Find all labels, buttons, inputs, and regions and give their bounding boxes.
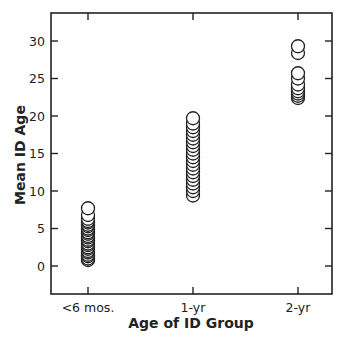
data-points [82, 40, 305, 267]
data-point-circle [292, 67, 305, 80]
y-tick-label: 0 [37, 259, 45, 274]
data-point-circle [292, 40, 305, 53]
x-tick-label: <6 mos. [62, 300, 115, 315]
y-tick-label: 5 [37, 221, 45, 236]
scatter-chart: 051015202530 <6 mos.1-yr2-yr Age of ID G… [0, 0, 345, 339]
y-axis-title: Mean ID Age [12, 105, 28, 205]
y-axis: 051015202530 [29, 34, 332, 274]
y-tick-label: 20 [29, 109, 45, 124]
x-axis-title: Age of ID Group [128, 315, 254, 331]
y-tick-label: 10 [29, 184, 45, 199]
data-point-circle [82, 202, 95, 215]
y-tick-label: 30 [29, 34, 45, 49]
data-point-circle [187, 112, 200, 125]
x-tick-label: 1-yr [181, 300, 207, 315]
y-tick-label: 25 [29, 71, 45, 86]
x-tick-label: 2-yr [286, 300, 312, 315]
y-tick-label: 15 [29, 146, 45, 161]
